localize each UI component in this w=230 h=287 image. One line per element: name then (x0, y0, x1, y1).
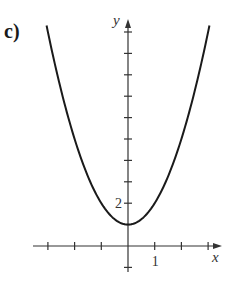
axes: 12 (33, 19, 222, 272)
parabola-graph: c) 12 x y (0, 0, 230, 287)
svg-text:2: 2 (115, 196, 122, 211)
panel-label: c) (4, 20, 20, 43)
svg-text:1: 1 (152, 254, 159, 269)
y-axis-label: y (111, 12, 120, 28)
x-axis-label: x (211, 249, 219, 265)
